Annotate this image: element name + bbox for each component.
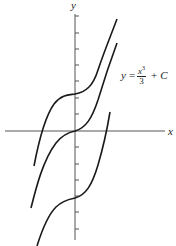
chart-canvas: x y [0, 0, 176, 246]
exponent: 3 [142, 65, 145, 71]
equation-lhs: y [121, 69, 126, 81]
equation-equals: = [129, 69, 135, 81]
x-axis-label: x [167, 125, 173, 137]
equation-fraction: x3 3 [137, 64, 146, 86]
y-axis-label: y [70, 0, 76, 11]
equation-plus: + [151, 69, 157, 81]
equation-annotation: y = x3 3 + C [121, 64, 168, 86]
equation-constant: C [160, 69, 167, 81]
fraction-denominator: 3 [138, 77, 145, 86]
